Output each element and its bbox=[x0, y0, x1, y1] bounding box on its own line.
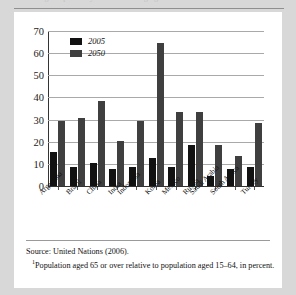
bar-group bbox=[48, 32, 68, 187]
x-label-slot: China bbox=[87, 188, 107, 234]
x-label-slot: South Africa bbox=[225, 188, 245, 234]
x-label-slot: Russia bbox=[185, 188, 205, 234]
y-tick-label: 60 bbox=[34, 48, 45, 59]
bar bbox=[98, 101, 105, 187]
y-tick-label: 10 bbox=[34, 158, 45, 169]
x-label-slot: Turkey bbox=[244, 188, 264, 234]
legend-label-2005: 2005 bbox=[88, 36, 105, 46]
legend-swatch-2050 bbox=[70, 50, 82, 57]
legend-swatch-2005 bbox=[70, 38, 82, 45]
footnote-note: 1Population aged 65 or over relative to … bbox=[26, 258, 276, 272]
legend-item-2050: 2050 bbox=[70, 48, 105, 58]
chart-legend: 2005 2050 bbox=[70, 36, 105, 58]
bar bbox=[78, 118, 85, 187]
y-tick-label: 70 bbox=[34, 26, 45, 37]
y-tick-label: 50 bbox=[34, 70, 45, 81]
bar-group bbox=[146, 32, 166, 187]
x-label-slot: Mexico bbox=[166, 188, 186, 234]
figure-panel: Old-Age Dependency Ratios in Emerging Ma… bbox=[0, 0, 296, 295]
clipped-heading-text: Old-Age Dependency Ratios in Emerging Ma… bbox=[24, 0, 221, 2]
legend-label-2050: 2050 bbox=[88, 48, 105, 58]
chart-area: 010203040506070 2005 2050 ArgentinaBrazi… bbox=[14, 12, 282, 234]
x-label-slot: Korea bbox=[146, 188, 166, 234]
legend-item-2005: 2005 bbox=[70, 36, 105, 46]
x-label-slot: Argentina bbox=[48, 188, 68, 234]
notes-divider bbox=[26, 240, 270, 241]
source-note: Source: United Nations (2006). bbox=[26, 246, 276, 258]
figure-notes: Source: United Nations (2006). 1Populati… bbox=[26, 246, 276, 272]
bar-group bbox=[107, 32, 127, 187]
y-tick-label: 40 bbox=[34, 92, 45, 103]
footnote-text: Population aged 65 or over relative to p… bbox=[35, 261, 274, 270]
top-divider bbox=[14, 8, 284, 9]
figure-card: 010203040506070 2005 2050 ArgentinaBrazi… bbox=[14, 12, 282, 288]
x-label-slot: Indonesia bbox=[127, 188, 147, 234]
bar-group bbox=[185, 32, 205, 187]
bar-group bbox=[244, 32, 264, 187]
x-axis-labels: ArgentinaBrazilChinaIndiaIndonesiaKoreaM… bbox=[48, 188, 264, 234]
x-label-slot: Brazil bbox=[68, 188, 88, 234]
x-label-slot: India bbox=[107, 188, 127, 234]
y-tick-label: 20 bbox=[34, 136, 45, 147]
y-tick-label: 30 bbox=[34, 114, 45, 125]
bar-group bbox=[166, 32, 186, 187]
bar-group bbox=[127, 32, 147, 187]
bar bbox=[157, 43, 164, 187]
